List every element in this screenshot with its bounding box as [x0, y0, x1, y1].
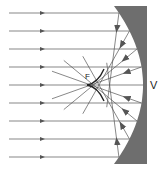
- reflected-arrow-icon: [125, 111, 128, 114]
- caustic-lower: [87, 85, 104, 101]
- ray-arrow-icon: [40, 29, 45, 33]
- reflected-arrow-icon: [125, 57, 128, 60]
- reflected-arrow-icon: [122, 41, 124, 44]
- reflected-arrow-icon: [117, 141, 118, 145]
- ray-arrow-icon: [40, 47, 45, 51]
- reflected-arrow-icon: [117, 25, 118, 29]
- diagram-stage: V F: [0, 0, 162, 169]
- ray-arrow-icon: [40, 119, 45, 123]
- ray-arrow-icon: [40, 83, 45, 87]
- ray-arrow-icon: [40, 11, 45, 15]
- reflected-arrow-icon: [122, 125, 124, 128]
- mirror-diagram: [0, 0, 162, 169]
- ray-arrow-icon: [40, 65, 45, 69]
- ray-arrow-icon: [40, 101, 45, 105]
- ray-arrow-icon: [40, 137, 45, 141]
- reflected-arrow-icon: [126, 98, 130, 99]
- vertex-label: V: [150, 79, 157, 91]
- reflected-arrow-icon: [126, 71, 130, 72]
- ray-arrow-icon: [40, 155, 45, 159]
- focus-label: F: [85, 72, 90, 81]
